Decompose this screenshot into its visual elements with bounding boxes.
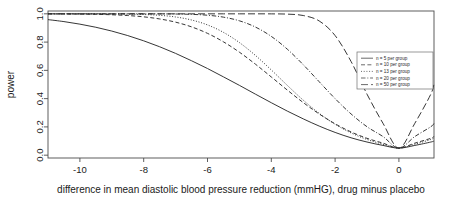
y-tick-label: 0.6 <box>35 64 46 77</box>
y-tick-label: 1.0 <box>35 7 46 20</box>
chart-container: -10-8-6-4-20 0.00.20.40.60.81.0 differen… <box>0 0 457 204</box>
legend-label[interactable]: n = 50 per group <box>376 82 410 87</box>
x-axis-title: difference in mean diastolic blood press… <box>57 184 425 195</box>
y-tick-label: 0.0 <box>35 149 46 162</box>
x-tick-label: -4 <box>267 164 275 175</box>
x-tick-label: -2 <box>331 164 339 175</box>
y-tick-label: 0.4 <box>35 92 46 105</box>
x-tick-label: 0 <box>396 164 401 175</box>
legend-label[interactable]: n = 5 per group <box>376 56 408 61</box>
y-axis-ticks: 0.00.20.40.60.81.0 <box>35 7 49 162</box>
y-tick-label: 0.2 <box>35 120 46 133</box>
x-tick-label: -8 <box>139 164 147 175</box>
legend-label[interactable]: n = 13 per group <box>376 69 410 74</box>
y-tick-label: 0.8 <box>35 35 46 48</box>
x-tick-label: -6 <box>203 164 211 175</box>
legend-label[interactable]: n = 10 per group <box>376 62 410 67</box>
y-axis-title: power <box>5 70 16 98</box>
power-curve-chart: -10-8-6-4-20 0.00.20.40.60.81.0 differen… <box>0 0 457 204</box>
x-tick-label: -10 <box>73 164 87 175</box>
x-axis-ticks: -10-8-6-4-20 <box>73 158 402 175</box>
legend[interactable]: n = 5 per groupn = 10 per groupn = 13 pe… <box>357 52 433 89</box>
legend-label[interactable]: n = 20 per group <box>376 76 410 81</box>
